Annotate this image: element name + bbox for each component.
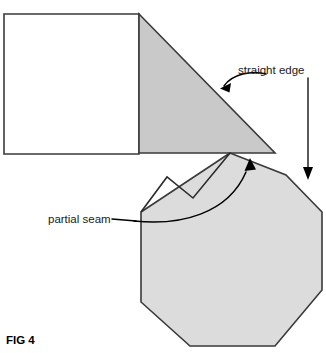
shaded-octagon-panel [141,153,322,346]
white-rectangle-panel [4,14,139,154]
shaded-triangle-panel [139,14,275,153]
partial-seam-leader-stub [112,219,136,221]
vertical-arrowhead-icon [303,167,313,180]
partial-seam-label: partial seam [48,213,111,225]
figure-caption: FIG 4 [6,334,35,346]
straight-edge-label: straight edge [238,64,305,76]
figure-container: straight edge partial seam FIG 4 [0,0,326,353]
technical-diagram: straight edge partial seam FIG 4 [0,0,326,353]
